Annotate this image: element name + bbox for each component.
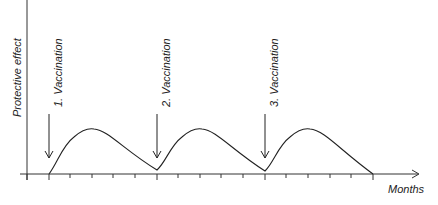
y-axis-label: Protective effect [11, 37, 23, 117]
protection-curve [49, 129, 373, 174]
x-axis-ticks [27, 174, 373, 180]
x-axis-label: Months [388, 183, 425, 195]
vaccination-label-2: 2. Vaccination [160, 38, 172, 108]
vaccination-label-1: 1. Vaccination [52, 38, 64, 107]
vaccination-arrow-1-icon [45, 114, 53, 158]
vaccination-arrow-2-icon [153, 114, 161, 158]
vaccination-label-3: 3. Vaccination [268, 38, 280, 107]
vaccination-arrow-3-icon [261, 114, 269, 158]
vaccination-diagram: Protective effect 1. Vaccination 2. Vacc… [0, 0, 438, 205]
